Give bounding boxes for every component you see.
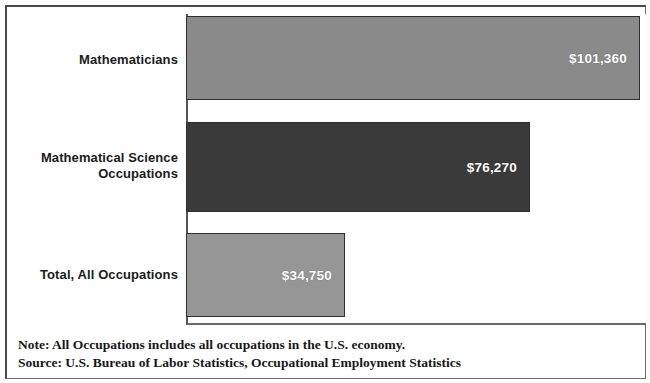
source-line: Source: U.S. Bureau of Labor Statistics,… bbox=[18, 354, 630, 372]
bar-total-all-occupations: $34,750 bbox=[186, 233, 345, 317]
bar-mathematical-science-occupations: $76,270 bbox=[186, 122, 530, 212]
bar-value-mathematicians: $101,360 bbox=[569, 51, 639, 66]
bar-value-mathematical-science-occupations: $76,270 bbox=[467, 160, 529, 175]
category-label-mathematical-science-occupations: Mathematical Science Occupations bbox=[41, 150, 178, 182]
bar-value-total-all-occupations: $34,750 bbox=[282, 268, 344, 283]
category-label-total-all-occupations: Total, All Occupations bbox=[40, 267, 178, 283]
bar-mathematicians: $101,360 bbox=[186, 16, 640, 100]
category-label-mathematicians: Mathematicians bbox=[79, 52, 178, 68]
bar-chart-figure: Mathematicians Mathematical Science Occu… bbox=[0, 0, 650, 383]
note-line: Note: All Occupations includes all occup… bbox=[18, 336, 630, 354]
footnotes: Note: All Occupations includes all occup… bbox=[18, 336, 630, 372]
bars-container: $101,360 $76,270 $34,750 bbox=[186, 14, 650, 325]
